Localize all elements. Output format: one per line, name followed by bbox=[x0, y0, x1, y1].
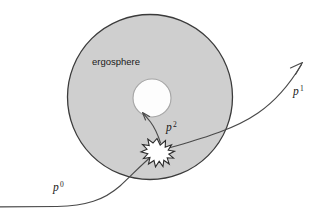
p0-label-base: p bbox=[52, 181, 59, 194]
p0-label: p 0 bbox=[52, 180, 64, 195]
escaping-particle-arrowhead bbox=[291, 63, 303, 75]
p1-label: p 1 bbox=[292, 84, 304, 99]
p0-label-superscript: 0 bbox=[60, 180, 64, 189]
p2-label-base: p bbox=[165, 121, 172, 134]
diagram-canvas: ergosphere p 0 p 1 p 2 bbox=[0, 0, 318, 214]
p1-label-base: p bbox=[292, 85, 299, 98]
p1-label-superscript: 1 bbox=[300, 84, 304, 93]
penrose-process-diagram: ergosphere p 0 p 1 p 2 bbox=[0, 0, 318, 214]
black-hole-circle bbox=[133, 79, 171, 117]
ergosphere-label: ergosphere bbox=[92, 56, 140, 67]
p2-label-superscript: 2 bbox=[173, 120, 177, 129]
